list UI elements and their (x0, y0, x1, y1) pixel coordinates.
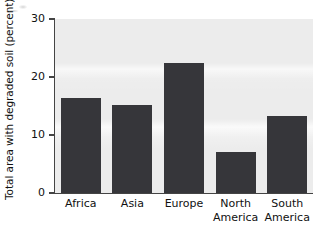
x-axis-category-labels: AfricaAsiaEuropeNorthAmericaSouthAmerica (55, 197, 313, 231)
x-axis-label: Europe (158, 197, 210, 211)
y-axis-title: Total area with degraded soil (percent) (1, 4, 17, 200)
bar (164, 63, 204, 194)
x-axis-label: NorthAmerica (210, 197, 262, 224)
y-tick-label: 30 (5, 13, 45, 24)
bar (61, 98, 101, 193)
x-axis-label: SouthAmerica (261, 197, 313, 224)
bar-chart-figure: Total area with degraded soil (percent) … (0, 0, 330, 231)
y-tick-label: 0 (5, 187, 45, 198)
bar (112, 105, 152, 193)
x-axis-label: Africa (55, 197, 107, 211)
bar-series (55, 19, 313, 193)
y-tick-label: 10 (5, 129, 45, 140)
y-tick-label: 20 (5, 71, 45, 82)
bar (267, 116, 307, 193)
x-axis-label: Asia (107, 197, 159, 211)
bar (216, 152, 256, 193)
